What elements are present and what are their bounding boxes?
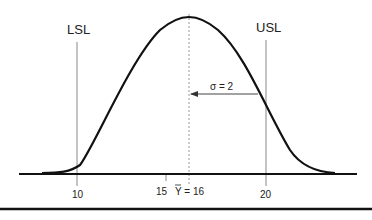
lsl-label: LSL: [67, 22, 90, 37]
tick-label-10: 10: [72, 189, 84, 200]
sigma-label: σ = 2: [210, 81, 234, 92]
usl-label: USL: [256, 20, 281, 35]
tick-label-15: 15: [156, 186, 168, 197]
mean-value-label: Y = 16: [175, 186, 204, 197]
normal-distribution-diagram: LSL USL σ = 2 10 15 Y = 16 20: [0, 0, 372, 220]
tick-label-20: 20: [260, 189, 272, 200]
